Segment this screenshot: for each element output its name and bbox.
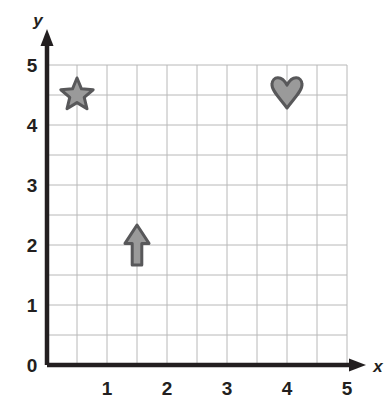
x-axis-tick-2: 2 bbox=[162, 378, 173, 399]
axis-tick-labels: 01234512345 bbox=[27, 55, 353, 399]
y-axis-label: y bbox=[32, 11, 44, 30]
y-axis-arrowhead bbox=[41, 29, 54, 46]
coordinate-plane-svg: 01234512345 y x bbox=[0, 0, 391, 408]
x-axis-tick-1: 1 bbox=[102, 378, 113, 399]
y-axis-tick-1: 1 bbox=[27, 295, 38, 316]
x-axis-arrowhead bbox=[349, 359, 366, 372]
y-axis-tick-3: 3 bbox=[27, 175, 38, 196]
grid-lines bbox=[47, 65, 347, 365]
marker-heart bbox=[272, 78, 302, 108]
plot-markers bbox=[61, 78, 302, 265]
y-axis-tick-2: 2 bbox=[27, 235, 38, 256]
x-axis-tick-5: 5 bbox=[342, 378, 353, 399]
coordinate-plane-figure: 01234512345 y x bbox=[0, 0, 391, 408]
axis-tick-origin: 0 bbox=[27, 355, 38, 376]
x-axis-tick-3: 3 bbox=[222, 378, 233, 399]
x-axis-label: x bbox=[372, 357, 384, 376]
y-axis-tick-4: 4 bbox=[27, 115, 38, 136]
marker-star bbox=[61, 78, 93, 109]
x-axis-tick-4: 4 bbox=[282, 378, 293, 399]
y-axis-tick-5: 5 bbox=[27, 55, 38, 76]
